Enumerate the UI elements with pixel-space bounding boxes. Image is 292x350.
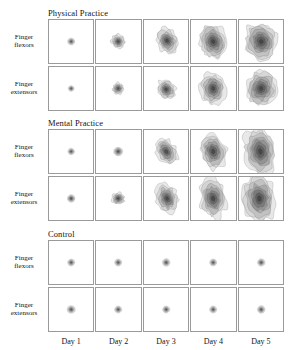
day-label-1: Day 1 <box>48 336 94 348</box>
contour-plot <box>191 241 235 284</box>
contour-plot <box>96 67 140 110</box>
map-panel <box>190 176 236 221</box>
contour-plot <box>239 67 283 110</box>
contour-plot <box>49 130 93 173</box>
map-panel <box>238 287 284 332</box>
contour-plot <box>191 130 235 173</box>
map-panel <box>238 66 284 111</box>
contour-plot <box>144 67 188 110</box>
row-label-line2: extensors <box>2 198 46 206</box>
row-label-line2: flexors <box>2 262 46 270</box>
row-label-line1: Finger <box>2 143 46 151</box>
map-panel <box>48 176 94 221</box>
day-label-2: Day 2 <box>95 336 141 348</box>
map-panel <box>48 19 94 64</box>
contour-plot <box>239 130 283 173</box>
row-label-flexors: Fingerflexors <box>2 254 46 271</box>
map-panel <box>143 66 189 111</box>
contour-plot <box>191 288 235 331</box>
day-label-3: Day 3 <box>143 336 189 348</box>
map-panel <box>238 129 284 174</box>
contour-plot <box>239 20 283 63</box>
map-panel <box>190 19 236 64</box>
map-panel <box>95 176 141 221</box>
map-panel <box>238 19 284 64</box>
row-label-extensors: Fingerextensors <box>2 190 46 207</box>
day-label-4: Day 4 <box>190 336 236 348</box>
row-label-line1: Finger <box>2 190 46 198</box>
contour-plot <box>96 177 140 220</box>
group-title: Physical Practice <box>48 8 108 18</box>
row-label-line1: Finger <box>2 80 46 88</box>
map-panel <box>48 66 94 111</box>
row-label-extensors: Fingerextensors <box>2 80 46 97</box>
map-panel <box>190 287 236 332</box>
contour-plot <box>239 241 283 284</box>
map-panel <box>95 19 141 64</box>
contour-plot <box>144 177 188 220</box>
map-panel <box>95 240 141 285</box>
row-label-flexors: Fingerflexors <box>2 33 46 50</box>
map-panel <box>95 287 141 332</box>
contour-plot <box>239 288 283 331</box>
row-label-line2: flexors <box>2 151 46 159</box>
contour-plot <box>49 67 93 110</box>
contour-plot <box>96 20 140 63</box>
row-label-flexors: Fingerflexors <box>2 143 46 160</box>
row-label-line2: extensors <box>2 309 46 317</box>
map-panel <box>48 240 94 285</box>
row-label-line2: extensors <box>2 88 46 96</box>
contour-plot <box>191 67 235 110</box>
row-label-line1: Finger <box>2 301 46 309</box>
contour-plot <box>96 288 140 331</box>
day-axis-labels: Day 1Day 2Day 3Day 4Day 5 <box>0 336 292 350</box>
row-label-line2: flexors <box>2 41 46 49</box>
contour-plot <box>49 20 93 63</box>
contour-plot <box>49 177 93 220</box>
row-label-line1: Finger <box>2 33 46 41</box>
row-label-line1: Finger <box>2 254 46 262</box>
contour-plot <box>144 130 188 173</box>
map-panel <box>143 176 189 221</box>
map-panel <box>95 129 141 174</box>
map-panel <box>48 129 94 174</box>
day-label-5: Day 5 <box>238 336 284 348</box>
map-panel <box>238 176 284 221</box>
map-panel <box>190 66 236 111</box>
contour-plot <box>96 130 140 173</box>
contour-plot <box>191 20 235 63</box>
map-panel <box>143 287 189 332</box>
map-panel <box>48 287 94 332</box>
contour-plot <box>239 177 283 220</box>
contour-plot <box>49 288 93 331</box>
map-panel <box>143 240 189 285</box>
map-panel <box>143 19 189 64</box>
map-panel <box>95 66 141 111</box>
map-panel <box>190 129 236 174</box>
contour-plot <box>144 241 188 284</box>
map-panel <box>143 129 189 174</box>
group-title: Mental Practice <box>48 118 103 128</box>
contour-plot <box>191 177 235 220</box>
group-title: Control <box>48 229 75 239</box>
row-label-extensors: Fingerextensors <box>2 301 46 318</box>
map-panel <box>190 240 236 285</box>
contour-plot <box>144 288 188 331</box>
contour-plot <box>96 241 140 284</box>
map-panel <box>238 240 284 285</box>
contour-plot <box>49 241 93 284</box>
contour-plot <box>144 20 188 63</box>
